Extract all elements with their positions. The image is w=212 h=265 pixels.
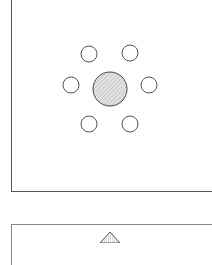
triangle-marker xyxy=(100,232,120,243)
ring-circle-6 xyxy=(122,116,138,132)
ring-circle-4 xyxy=(141,77,157,93)
ring-circle-3 xyxy=(63,77,79,93)
ring-circle-2 xyxy=(122,45,138,61)
ring-circle-5 xyxy=(81,116,97,132)
center-disc xyxy=(93,72,127,106)
ring-circle-1 xyxy=(81,46,97,62)
